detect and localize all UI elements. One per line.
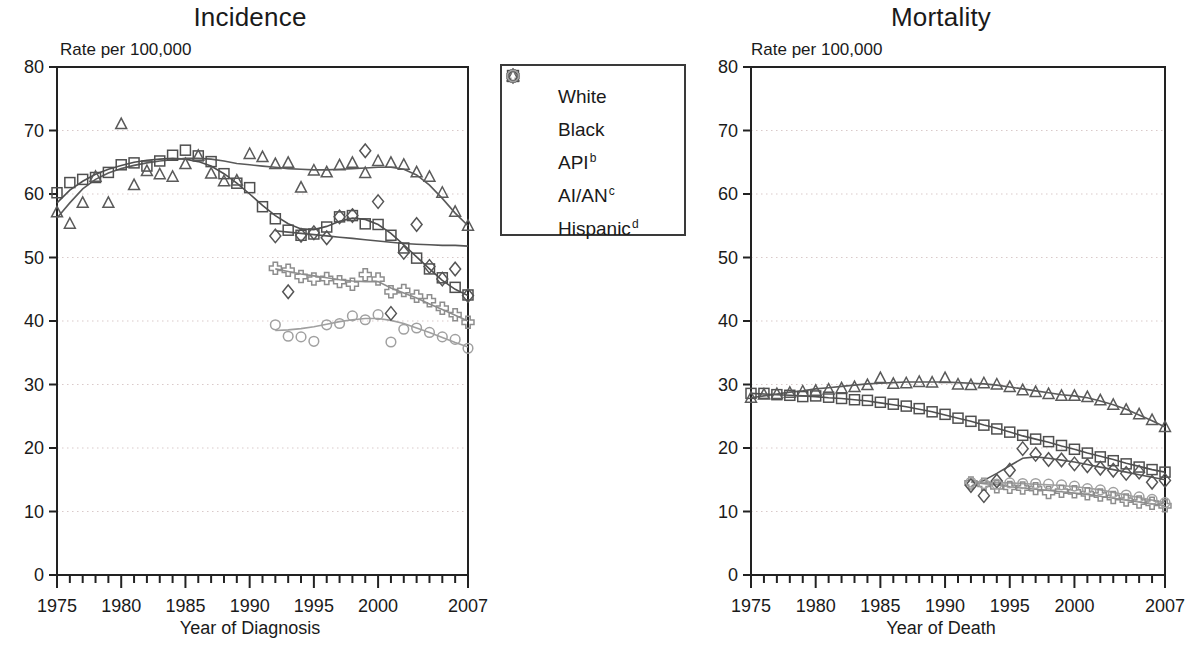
y-axis-tick-label: 10 [718, 502, 738, 522]
data-point-diamond [321, 231, 332, 245]
data-point-cross [334, 276, 346, 288]
y-axis-tick-label: 60 [718, 184, 738, 204]
data-point-circle [335, 319, 345, 329]
x-axis-tick-label: 1980 [101, 596, 141, 616]
y-axis-tick-label: 20 [718, 438, 738, 458]
legend-item-white[interactable]: White [528, 80, 684, 113]
legend-item-footnote-marker: b [590, 151, 597, 165]
incidence-plot-svg: 0102030405060708019751980198519901995200… [0, 0, 500, 655]
data-point-square [65, 178, 75, 188]
legend-item-label: AI/ANc [558, 184, 615, 207]
trend-line-white [57, 158, 468, 295]
data-point-diamond [411, 218, 422, 232]
x-axis-tick-label: 1995 [990, 596, 1030, 616]
incidence-chart-panel: Incidence Rate per 100,000 0102030405060… [0, 0, 500, 655]
data-point-cross [359, 269, 371, 281]
y-axis-tick-label: 80 [718, 57, 738, 77]
data-point-circle [399, 324, 409, 334]
legend: WhiteBlackAPIbAI/ANcHispanicd [500, 64, 686, 236]
data-point-diamond [373, 195, 384, 209]
x-axis-tick-label: 1995 [294, 596, 334, 616]
data-point-cross [295, 271, 307, 283]
cross-icon [528, 153, 554, 173]
data-point-triangle [129, 179, 140, 189]
data-point-triangle [64, 218, 75, 228]
data-point-triangle [385, 157, 396, 167]
legend-item-label: White [558, 86, 607, 108]
data-point-diamond [1017, 442, 1028, 456]
data-point-triangle [1082, 391, 1093, 401]
data-point-triangle [116, 118, 127, 128]
mortality-chart-panel: Mortality Rate per 100,000 0102030405060… [691, 0, 1191, 655]
data-point-circle [309, 336, 319, 346]
data-point-diamond [360, 144, 371, 158]
series-white [746, 388, 1170, 477]
legend-item-label: APIb [558, 151, 596, 174]
data-point-triangle [103, 197, 114, 207]
data-point-triangle [334, 159, 345, 169]
x-axis-tick-label: 1985 [165, 596, 205, 616]
data-point-triangle [978, 377, 989, 387]
y-axis-tick-label: 40 [24, 311, 44, 331]
series-hispanic [271, 310, 473, 353]
x-axis-tick-label: 2007 [448, 596, 488, 616]
data-point-triangle [321, 166, 332, 176]
data-point-triangle [167, 171, 178, 181]
y-axis-tick-label: 10 [24, 502, 44, 522]
series-ai-an [270, 144, 474, 320]
legend-item-label: Black [558, 119, 604, 141]
square-icon [528, 87, 554, 107]
y-axis-tick-label: 40 [718, 311, 738, 331]
incidence-x-axis-label: Year of Diagnosis [0, 618, 500, 639]
data-point-triangle [437, 187, 448, 197]
data-point-triangle [424, 171, 435, 181]
x-axis-tick-label: 1975 [37, 596, 77, 616]
diamond-icon [528, 186, 554, 206]
legend-item-footnote-marker: c [609, 184, 615, 198]
series-black [52, 118, 474, 230]
y-axis-tick-label: 60 [24, 184, 44, 204]
data-point-triangle [991, 379, 1002, 389]
circle-icon [528, 219, 554, 239]
y-axis-tick-label: 70 [24, 121, 44, 141]
legend-item-label: Hispanicd [558, 217, 639, 240]
data-point-square [180, 145, 190, 155]
data-point-triangle [257, 151, 268, 161]
y-axis-tick-label: 50 [718, 248, 738, 268]
data-point-circle [271, 320, 281, 330]
x-axis-tick-label: 1985 [860, 596, 900, 616]
data-point-diamond [450, 262, 461, 276]
x-axis-tick-label: 1980 [796, 596, 836, 616]
data-point-triangle [154, 168, 165, 178]
legend-item-api[interactable]: APIb [528, 146, 684, 179]
x-axis-tick-label: 1975 [731, 596, 771, 616]
data-point-triangle [953, 379, 964, 389]
data-point-circle [360, 315, 370, 325]
y-axis-tick-label: 20 [24, 438, 44, 458]
data-point-circle [283, 331, 293, 341]
legend-list: WhiteBlackAPIbAI/ANcHispanicd [502, 66, 684, 245]
x-axis-tick-label: 2007 [1145, 596, 1185, 616]
data-point-triangle [283, 157, 294, 167]
data-point-diamond [283, 285, 294, 299]
data-point-triangle [450, 206, 461, 216]
data-point-square [283, 225, 293, 235]
y-axis-tick-label: 30 [24, 375, 44, 395]
data-point-triangle [373, 155, 384, 165]
data-point-triangle [875, 372, 886, 382]
legend-item-footnote-marker: d [632, 217, 639, 231]
y-axis-tick-label: 70 [718, 121, 738, 141]
data-point-diamond [1069, 457, 1080, 471]
data-point-triangle [940, 372, 951, 382]
mortality-x-axis-label: Year of Death [691, 618, 1191, 639]
x-axis-tick-label: 1990 [925, 596, 965, 616]
data-point-triangle [244, 148, 255, 158]
legend-item-black[interactable]: Black [528, 113, 684, 146]
data-point-diamond [1030, 448, 1041, 462]
legend-item-ai-an[interactable]: AI/ANc [528, 179, 684, 212]
x-axis-tick-label: 2000 [1054, 596, 1094, 616]
legend-item-hispanic[interactable]: Hispanicd [528, 212, 684, 245]
x-axis-tick-label: 1990 [230, 596, 270, 616]
data-point-triangle [347, 157, 358, 167]
data-point-circle [507, 70, 518, 81]
